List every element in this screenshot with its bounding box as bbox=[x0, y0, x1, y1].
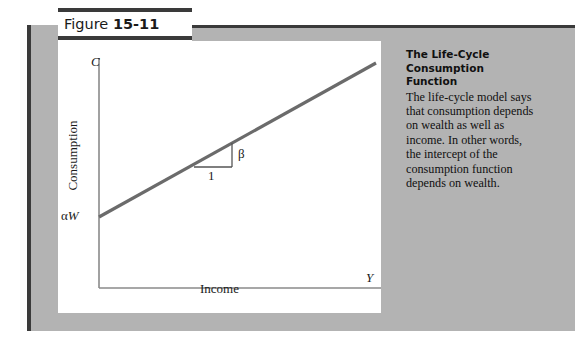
caption-heading: The Life-Cycle Consumption Function bbox=[406, 48, 538, 89]
x-axis-title: Income bbox=[58, 282, 381, 295]
figure-tab-rule-bottom bbox=[58, 36, 192, 40]
consumption-function-chart bbox=[58, 41, 381, 313]
caption-heading-line-2: Consumption Function bbox=[406, 62, 538, 89]
figure-15-11: Figure 15-11 C Y αW β 1 Income Consumpti… bbox=[0, 0, 588, 345]
figure-number-prefix: Figure bbox=[64, 16, 113, 32]
y-axis-title: Consumption bbox=[66, 96, 79, 216]
y-axis-symbol: C bbox=[91, 55, 100, 68]
panel-top-rule bbox=[192, 25, 575, 28]
figure-tab-rule-top bbox=[58, 8, 192, 12]
consumption-function-line bbox=[99, 63, 376, 217]
figure-number-label: Figure 15-11 bbox=[64, 14, 192, 34]
caption-body: The life-cycle model says that consumpti… bbox=[406, 90, 538, 191]
plot-area: C Y αW β 1 Income Consumption bbox=[58, 41, 381, 313]
figure-caption: The Life-Cycle Consumption Function The … bbox=[406, 48, 538, 190]
figure-number-value: 15-11 bbox=[113, 16, 159, 32]
caption-heading-line-1: The Life-Cycle bbox=[406, 48, 538, 62]
slope-label-beta: β bbox=[238, 147, 245, 160]
slope-label-run: 1 bbox=[208, 169, 215, 182]
